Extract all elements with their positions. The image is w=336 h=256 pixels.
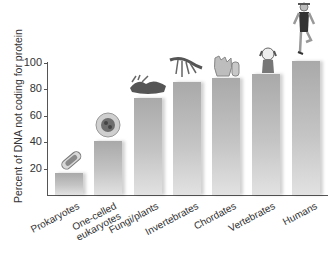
cell-icon	[95, 112, 121, 138]
bar-invertebrates	[173, 82, 201, 195]
bar-chordates	[212, 78, 240, 195]
human-runner-icon	[289, 0, 319, 60]
y-axis	[47, 62, 48, 196]
bar-one-celled-eukaryotes	[94, 141, 122, 195]
tick-label-80: 80	[20, 82, 42, 94]
bar-vertebrates	[252, 74, 280, 195]
bar-humans	[292, 61, 320, 195]
tick-40	[44, 142, 48, 143]
bacterium-icon	[58, 148, 84, 172]
tick-100	[44, 63, 48, 64]
tick-label-100: 100	[20, 56, 42, 68]
fungi-plant-icon	[128, 74, 168, 96]
chordate-icon	[213, 54, 241, 78]
bar-fungi-plants	[134, 98, 162, 195]
x-axis	[47, 195, 328, 196]
dog-icon	[258, 46, 278, 74]
tick-60	[44, 116, 48, 117]
invertebrate-icon	[168, 54, 204, 80]
tick-80	[44, 89, 48, 90]
tick-label-20: 20	[20, 162, 42, 174]
tick-20	[44, 169, 48, 170]
tick-label-40: 40	[20, 135, 42, 147]
bar-prokaryotes	[55, 173, 83, 195]
y-axis-label: Percent of DNA not coding for protein	[12, 53, 24, 203]
x-label-humans: Humans	[281, 201, 319, 227]
tick-label-60: 60	[20, 109, 42, 121]
